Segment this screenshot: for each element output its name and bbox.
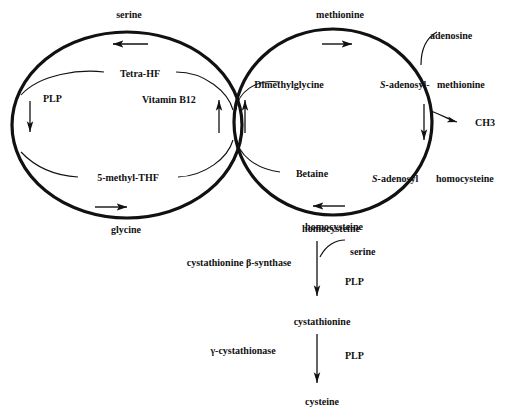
pathway-canvas: serine glycine Tetra-HF 5-methyl-THF PLP… [0, 0, 518, 414]
methyl-thf-label: 5-methyl-THF [97, 172, 159, 183]
pathway-diagram: serine glycine Tetra-HF 5-methyl-THF PLP… [0, 0, 518, 414]
gamma-cystathionase-label: γ-cystathionase [209, 345, 276, 356]
sam-prefix-label: S- [380, 79, 389, 90]
folate-top-label: serine [116, 9, 142, 20]
folate-cycle-ring [12, 32, 242, 218]
serine-branch [320, 240, 345, 257]
adenosine-label: adenosine [430, 30, 473, 41]
sam-methionine-label: methionine [437, 79, 485, 90]
methionine-top-label: methionine [316, 9, 364, 20]
folate-bottom-label: glycine [111, 224, 142, 235]
serine-substrate-label: serine [350, 246, 376, 257]
sah-adenosyl-label: adenosyl [381, 173, 418, 184]
transsulfuration-node-cystathionine: cystathionine [294, 316, 351, 327]
plp-label-cth: PLP [345, 350, 364, 361]
plp-label-cbs: PLP [345, 276, 364, 287]
sah-prefix-label: S- [372, 173, 381, 184]
transsulfuration-node-homocysteine: homocysteine [302, 223, 360, 234]
ch3-branch [431, 111, 457, 122]
methionine-inner-arc-lower [236, 137, 280, 172]
ch3-label: CH3 [475, 117, 495, 128]
methionine-cycle-ring [234, 29, 432, 215]
dimethylglycine-label: Dimethylglycine [254, 79, 324, 90]
vitamin-b12-label: Vitamin B12 [142, 94, 196, 105]
plp-label-folate: PLP [43, 93, 62, 104]
betaine-label: Betaine [296, 168, 329, 179]
tetrahydrofolate-label: Tetra-HF [120, 68, 160, 79]
cystathionine-beta-synthase-label: cystathionine β-synthase [187, 257, 292, 268]
sah-homocysteine-label: homocysteine [436, 173, 494, 184]
transsulfuration-node-cysteine: cysteine [305, 396, 339, 407]
folate-inner-arc-upper-left [21, 71, 104, 95]
sam-adenosyl-label: adenosyl- [389, 79, 430, 90]
